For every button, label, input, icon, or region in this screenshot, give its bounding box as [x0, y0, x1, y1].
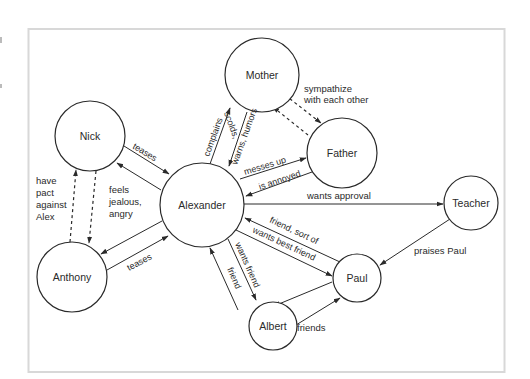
- node-label: Mother: [246, 69, 279, 81]
- diagram-canvas: Mother Father Nick Alexander Anthony Tea…: [0, 0, 530, 379]
- node-label: Teacher: [452, 197, 490, 209]
- label-pact-line3: against: [36, 199, 67, 210]
- node-nick: Nick: [55, 101, 125, 171]
- edge-anthony-to-nick: [70, 170, 76, 242]
- node-label: Father: [327, 147, 358, 159]
- node-albert: Albert: [249, 302, 297, 350]
- label-feels-line3: angry: [109, 208, 133, 219]
- node-label: Albert: [259, 320, 287, 332]
- node-label: Nick: [80, 130, 101, 142]
- label-anthony-teases: teases: [125, 251, 154, 273]
- edge-father-to-mother: [273, 107, 308, 135]
- node-father: Father: [307, 118, 377, 188]
- edge-nick-to-anthony: [89, 171, 96, 243]
- relationship-diagram: Mother Father Nick Alexander Anthony Tea…: [0, 0, 530, 379]
- label-pact-line1: have: [36, 175, 57, 186]
- node-label: Anthony: [53, 271, 92, 283]
- label-sympathize-line1: sympathize: [304, 83, 352, 94]
- edge-alexander-to-anthony: [101, 221, 162, 254]
- label-sympathize-line2: with each other: [303, 94, 368, 105]
- node-mother: Mother: [225, 38, 299, 112]
- edge-albert-to-paul: [296, 298, 340, 325]
- label-feels-line2: jealous,: [108, 196, 142, 207]
- label-nick-teases: teases: [131, 141, 159, 163]
- node-teacher: Teacher: [444, 176, 498, 230]
- label-complains: complains: [201, 116, 224, 158]
- edge-teacher-to-paul: [380, 219, 450, 265]
- label-wants-approval: wants approval: [306, 190, 371, 201]
- label-friends: friends: [297, 322, 326, 333]
- node-anthony: Anthony: [37, 242, 107, 312]
- label-praises-paul: praises Paul: [414, 245, 466, 256]
- node-paul: Paul: [333, 254, 381, 302]
- margin-mark: [0, 37, 2, 43]
- label-feels-line1: feels: [109, 184, 129, 195]
- node-label: Paul: [346, 272, 367, 284]
- edge-paul-to-albert: [274, 282, 332, 306]
- label-pact-line2: pact: [36, 187, 54, 198]
- label-pact-line4: Alex: [36, 211, 55, 222]
- node-alexander: Alexander: [160, 163, 244, 247]
- node-label: Alexander: [178, 199, 226, 211]
- margin-mark: [0, 84, 2, 88]
